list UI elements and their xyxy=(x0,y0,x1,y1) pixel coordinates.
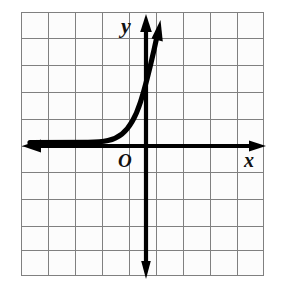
graph-figure: y O x xyxy=(0,0,287,289)
coordinate-plane-svg: y O x xyxy=(0,0,287,289)
x-axis-label: x xyxy=(243,149,254,171)
origin-label: O xyxy=(118,150,132,171)
